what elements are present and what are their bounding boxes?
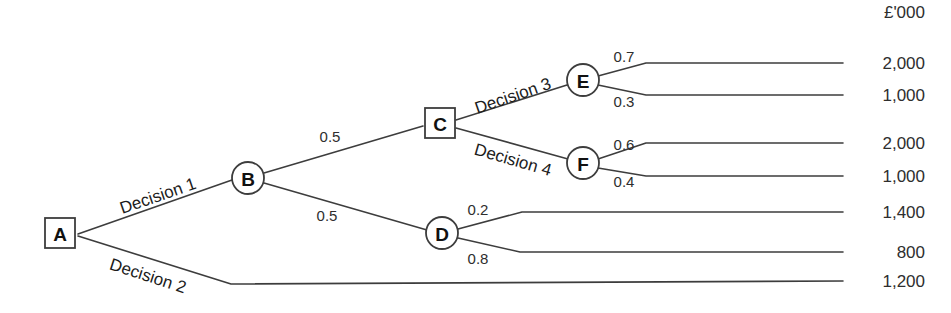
branch-b-to-d xyxy=(264,183,427,230)
node-f-label: F xyxy=(577,154,589,175)
payoff-value-1: 2,000 xyxy=(882,54,925,73)
payoff-value-5: 1,400 xyxy=(882,203,925,222)
node-c-label: C xyxy=(433,114,447,135)
probability-d-lower: 0.8 xyxy=(468,250,489,267)
node-a[interactable]: A xyxy=(45,218,75,248)
node-a-label: A xyxy=(53,224,67,245)
node-b-label: B xyxy=(241,169,255,190)
decision-2-label: Decision 2 xyxy=(107,255,188,298)
branch-d-to-terminal-6 xyxy=(458,238,843,252)
node-e-label: E xyxy=(577,71,590,92)
branch-lines xyxy=(78,63,843,284)
decision-1-label: Decision 1 xyxy=(117,174,198,218)
branch-f-to-terminal-3 xyxy=(598,143,843,159)
probability-e-lower: 0.3 xyxy=(614,93,635,110)
probability-f-upper: 0.6 xyxy=(614,136,635,153)
payoff-value-3: 2,000 xyxy=(882,134,925,153)
node-e[interactable]: E xyxy=(567,64,599,96)
node-f[interactable]: F xyxy=(567,147,599,179)
node-c[interactable]: C xyxy=(425,108,455,138)
probability-f-lower: 0.4 xyxy=(614,173,635,190)
probability-b-to-d: 0.5 xyxy=(317,207,338,224)
probability-e-upper: 0.7 xyxy=(614,48,635,65)
branch-a-to-terminal-7 xyxy=(78,236,843,284)
units-header-label: £'000 xyxy=(884,3,925,22)
node-b[interactable]: B xyxy=(232,162,264,194)
branch-b-to-c xyxy=(264,126,423,173)
payoff-value-6: 800 xyxy=(897,243,925,262)
payoff-value-7: 1,200 xyxy=(882,272,925,291)
branch-e-to-terminal-1 xyxy=(598,63,843,76)
payoff-column: £'000 2,000 1,000 2,000 1,000 1,400 800 … xyxy=(882,3,925,291)
branch-e-to-terminal-2 xyxy=(598,85,843,95)
decision-4-label: Decision 4 xyxy=(472,140,554,180)
payoff-value-4: 1,000 xyxy=(882,167,925,186)
probability-b-to-c: 0.5 xyxy=(320,128,341,145)
branch-d-to-terminal-5 xyxy=(458,212,843,229)
decision-3-label: Decision 3 xyxy=(472,74,553,118)
decision-tree-figure: A B C D E F xyxy=(0,0,951,313)
payoff-value-2: 1,000 xyxy=(882,86,925,105)
branch-f-to-terminal-4 xyxy=(598,168,843,176)
probability-d-upper: 0.2 xyxy=(468,201,489,218)
decision-tree-canvas: A B C D E F xyxy=(0,0,951,313)
node-d-label: D xyxy=(435,224,449,245)
node-d[interactable]: D xyxy=(426,217,458,249)
